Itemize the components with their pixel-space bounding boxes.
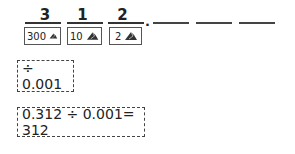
place-label: 300 [27, 31, 46, 42]
pile-icon [124, 31, 138, 41]
answer-line-tens [67, 22, 103, 24]
blank-tenths[interactable] [153, 22, 189, 24]
place-card-300: 300 [24, 27, 61, 45]
blank-hundredths[interactable] [196, 22, 232, 24]
blank-thousandths[interactable] [239, 22, 275, 24]
pile-icon [86, 31, 99, 41]
divisor-box: ÷ 0.001 [17, 60, 74, 92]
place-label: 10 [70, 31, 83, 42]
place-card-10: 10 [67, 27, 102, 45]
place-card-2: 2 [109, 27, 142, 45]
equation-box: 0.312 ÷ 0.001= 312 [17, 107, 145, 137]
place-label: 2 [115, 31, 121, 42]
decimal-point: . [145, 14, 150, 29]
answer-line-ones [108, 22, 144, 24]
answer-line-hundreds [25, 22, 61, 24]
pile-icon [49, 31, 58, 41]
